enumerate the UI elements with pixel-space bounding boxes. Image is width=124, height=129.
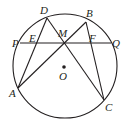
label-a: A bbox=[8, 87, 16, 99]
chord-da bbox=[18, 18, 47, 88]
label-b: B bbox=[86, 7, 93, 19]
label-c: C bbox=[105, 101, 113, 113]
label-d: D bbox=[39, 4, 48, 16]
label-m: M bbox=[57, 27, 68, 39]
label-f: F bbox=[88, 32, 96, 44]
label-o: O bbox=[59, 70, 67, 82]
label-e: E bbox=[28, 32, 36, 44]
label-q: Q bbox=[112, 37, 120, 49]
label-p: P bbox=[11, 37, 19, 49]
center-point-o bbox=[62, 65, 66, 69]
chord-dc bbox=[47, 18, 104, 100]
geometry-diagram: D B M P E F Q O A C bbox=[0, 0, 124, 129]
